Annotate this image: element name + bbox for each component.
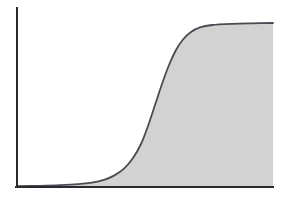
- sigmoid-area-chart: [0, 0, 283, 200]
- chart-figure: [0, 0, 283, 200]
